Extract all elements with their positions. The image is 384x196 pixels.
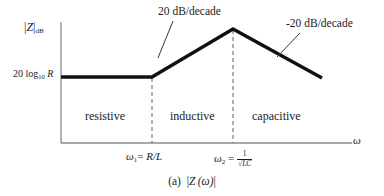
y-axis-label: |Z|dB [24, 21, 44, 35]
omega2-symbol: ω [214, 152, 222, 164]
region-label-capacitive: capacitive [252, 110, 301, 122]
caption-variable: Z [189, 175, 195, 187]
annotation-slope-negative: -20 dB/decade [286, 18, 353, 30]
omega2-denominator: √LC [237, 160, 252, 169]
impedance-magnitude-curve [61, 29, 322, 78]
y-axis-value-label: 20 log10 R [13, 69, 53, 80]
figure-caption: (a) |Z (ω)| [0, 176, 384, 188]
annotation-slope-positive: 20 dB/decade [158, 6, 221, 18]
y-axis-value-prefix: 20 log [13, 68, 38, 79]
leader-line-slope-negative [277, 33, 300, 57]
caption-argument: (ω) [198, 175, 214, 187]
region-label-resistive: resistive [85, 110, 125, 122]
leader-line-slope-positive [158, 21, 173, 58]
x-axis-label: ω [353, 135, 361, 146]
omega1-equals: = [137, 150, 143, 162]
y-axis-value-subscript: 10 [38, 73, 45, 80]
y-axis-label-subscript: dB [36, 27, 44, 35]
x-tick-label-omega2: ω2 = 1√LC [214, 150, 252, 168]
omega2-subscript: 2 [222, 158, 226, 166]
omega1-symbol: ω [126, 150, 134, 162]
omega2-fraction: 1√LC [237, 150, 252, 168]
omega2-denominator-text: LC [242, 159, 251, 168]
x-tick-label-omega1: ω1= R/L [126, 151, 162, 164]
caption-bar-close: | [214, 175, 216, 187]
omega2-equals: = [228, 152, 234, 164]
bode-magnitude-figure: |Z|dB 20 log10 R 20 dB/decade -20 dB/dec… [0, 0, 384, 196]
region-label-inductive: inductive [170, 110, 215, 122]
y-axis-value-variable: R [47, 68, 53, 79]
omega1-value: R/L [146, 150, 162, 162]
caption-prefix: (a) [168, 175, 181, 187]
